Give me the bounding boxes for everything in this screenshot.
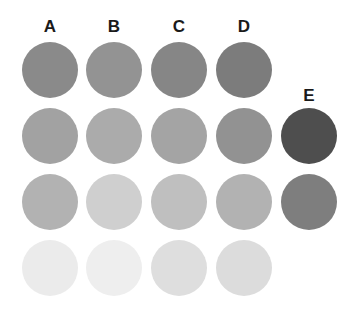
swatch-d-4 xyxy=(216,240,272,296)
swatch-e-2 xyxy=(281,108,337,164)
swatch-c-1 xyxy=(151,42,207,98)
swatch-c-2 xyxy=(151,108,207,164)
swatch-c-4 xyxy=(151,240,207,296)
swatch-a-4 xyxy=(22,240,78,296)
column-label-e: E xyxy=(294,87,324,104)
swatch-a-1 xyxy=(22,42,78,98)
swatch-d-3 xyxy=(216,174,272,230)
swatch-d-2 xyxy=(216,108,272,164)
swatch-b-3 xyxy=(86,174,142,230)
swatch-d-1 xyxy=(216,42,272,98)
swatch-a-2 xyxy=(22,108,78,164)
swatch-e-3 xyxy=(281,174,337,230)
swatch-b-2 xyxy=(86,108,142,164)
swatch-c-3 xyxy=(151,174,207,230)
swatch-b-1 xyxy=(86,42,142,98)
column-label-a: A xyxy=(35,18,65,35)
swatch-b-4 xyxy=(86,240,142,296)
column-label-b: B xyxy=(99,18,129,35)
column-label-c: C xyxy=(164,18,194,35)
column-label-d: D xyxy=(229,18,259,35)
swatch-a-3 xyxy=(22,174,78,230)
